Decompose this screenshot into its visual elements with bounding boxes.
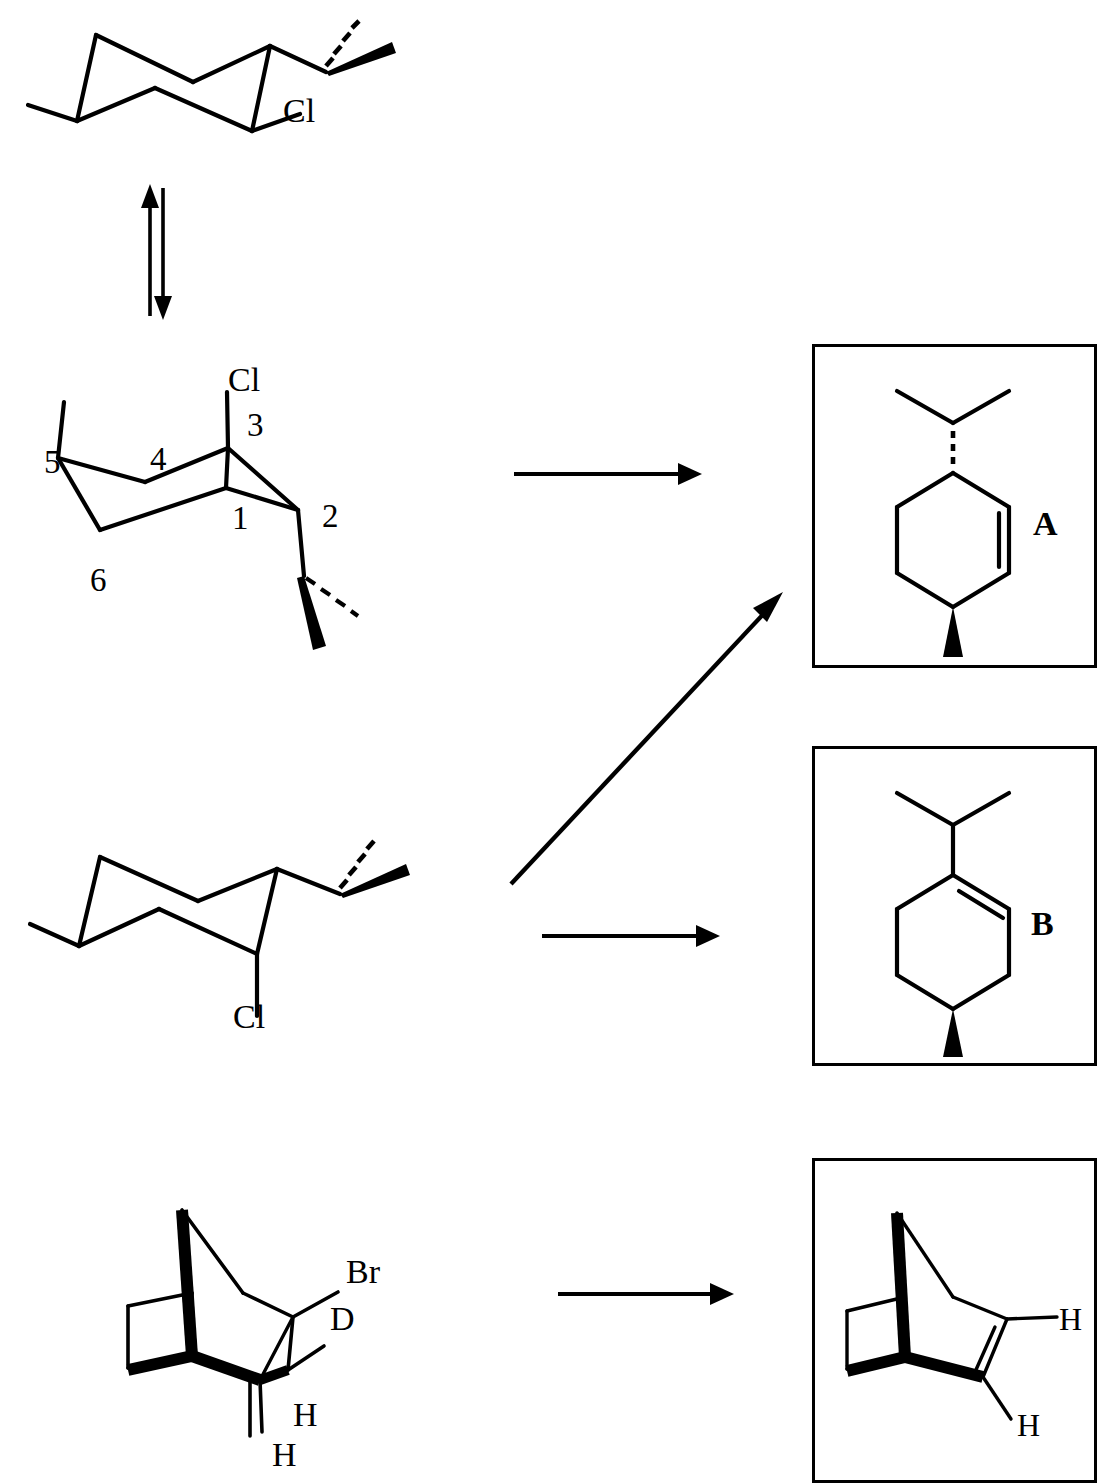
equilibrium-arrowhead-up — [141, 184, 159, 208]
product-c-hydrogen-label-upper: H — [1059, 1303, 1082, 1335]
product-b-label: B — [1031, 907, 1054, 941]
isopropyl-bold-wedge-numbered — [297, 576, 326, 650]
chlorine-label-numbered: Cl — [228, 363, 260, 397]
methyl-bold-wedge-product-b — [943, 1009, 963, 1057]
reaction-arrow-bicyclic-to-product — [556, 1278, 756, 1310]
product-a-box: A — [812, 344, 1097, 668]
chlorine-label-lower: Cl — [233, 1000, 265, 1034]
ring-atom-number-2: 2 — [322, 500, 339, 533]
reaction-arrow-lower-to-b — [540, 920, 740, 952]
ring-atom-number-4: 4 — [150, 443, 167, 476]
isopropyl-bold-wedge-lower — [340, 864, 410, 898]
deuterium-label: D — [330, 1302, 355, 1336]
arrowhead — [710, 1283, 734, 1305]
product-c-hydrogen-label-lower: H — [1017, 1409, 1040, 1441]
chair-conformer-axial-chloride-down — [22, 836, 422, 1016]
chair-conformer-equatorial-chloride — [20, 14, 420, 154]
ring-flip-equilibrium-arrows — [138, 182, 182, 322]
ring-atom-number-6: 6 — [90, 564, 107, 597]
isopropyl-hashed-bond — [326, 21, 359, 66]
ring-atom-number-1: 1 — [232, 502, 249, 535]
arrowhead — [678, 463, 702, 485]
product-a-label: A — [1033, 507, 1058, 541]
equilibrium-arrowhead-down — [154, 296, 172, 320]
hydrogen-label-upper: H — [293, 1398, 318, 1432]
methyl-bold-wedge-product-a — [943, 607, 963, 657]
product-c-norbornene — [835, 1187, 1085, 1457]
product-a-cyclohexene — [875, 361, 1055, 661]
product-b-box: B — [812, 746, 1097, 1066]
product-b-cyclohexene — [875, 763, 1055, 1059]
product-c-box: H H — [812, 1158, 1097, 1483]
hydrogen-label-lower: H — [272, 1438, 297, 1472]
bromine-label: Br — [346, 1255, 380, 1289]
arrowhead — [696, 925, 720, 947]
reaction-arrow-numbered-to-a — [512, 458, 712, 490]
isopropyl-bold-wedge — [326, 42, 396, 76]
ring-atom-number-5: 5 — [44, 446, 61, 479]
bromo-deuterio-norbornane — [110, 1180, 400, 1440]
ring-atom-number-3: 3 — [247, 409, 264, 442]
chlorine-label-top: Cl — [283, 94, 315, 128]
reaction-arrow-lower-to-a — [505, 580, 795, 890]
textbook-page: 800 STEREOCHEMISTRY OF BIMOLECULAR ELIMI… — [0, 0, 1114, 1483]
